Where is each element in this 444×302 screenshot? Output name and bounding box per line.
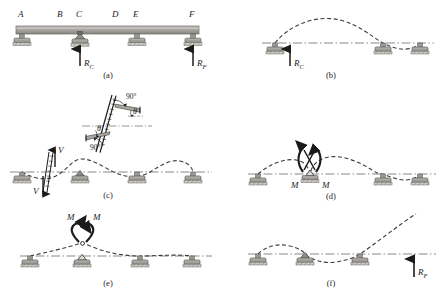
deflection-curve-d bbox=[258, 157, 420, 180]
panel-a bbox=[13, 26, 202, 66]
support-b1 bbox=[266, 43, 284, 54]
support-f bbox=[184, 34, 202, 46]
support-f1 bbox=[249, 254, 267, 265]
angle-label-theta-lower: θ bbox=[97, 125, 101, 133]
caption-e: (e) bbox=[88, 278, 128, 288]
node-label-e: E bbox=[133, 10, 139, 19]
caption-c: (c) bbox=[88, 190, 128, 200]
moment-label-left-d: M bbox=[291, 181, 299, 190]
moment-label-left-e: M bbox=[67, 213, 75, 222]
reaction-subscript: C bbox=[300, 63, 304, 70]
deflection-curve-b bbox=[275, 18, 420, 49]
shear-label-up: V bbox=[58, 146, 64, 155]
caption-d: (d) bbox=[311, 191, 351, 201]
node-label-b: B bbox=[57, 10, 63, 19]
node-label-a: A bbox=[18, 10, 24, 19]
moment-arrow-left-d bbox=[299, 148, 304, 172]
reaction-label-rc-b: RC bbox=[294, 59, 304, 70]
panel-b bbox=[262, 18, 434, 66]
support-a bbox=[13, 34, 31, 46]
reaction-subscript: F bbox=[424, 272, 428, 279]
angle-label-90-lower: 90° bbox=[90, 144, 101, 152]
deflection-curve-f bbox=[258, 214, 416, 263]
beam-analysis-figure: A B C D E F RC RF RC 90° θ 90° θ V V M M… bbox=[0, 0, 444, 302]
reaction-label-rf-f: RF bbox=[418, 268, 427, 279]
support-d1 bbox=[249, 174, 267, 185]
support-b3 bbox=[411, 43, 429, 54]
caption-f: (f) bbox=[311, 278, 351, 288]
support-e bbox=[128, 34, 146, 46]
panel-f bbox=[248, 214, 436, 277]
support-d3 bbox=[374, 174, 392, 185]
support-b2 bbox=[374, 43, 392, 54]
support-c1 bbox=[13, 172, 31, 183]
panel-e bbox=[20, 224, 212, 267]
reaction-subscript: C bbox=[90, 63, 94, 70]
moment-label-right-e: M bbox=[93, 213, 101, 222]
moment-arrow-left-e bbox=[72, 224, 80, 242]
reaction-subscript: F bbox=[203, 63, 207, 70]
node-label-c: C bbox=[76, 10, 82, 19]
caption-b: (b) bbox=[311, 70, 351, 80]
node-label-f: F bbox=[189, 10, 195, 19]
support-c4 bbox=[184, 172, 202, 183]
support-e4 bbox=[183, 256, 201, 267]
support-c3 bbox=[128, 172, 146, 183]
moment-arrows-d bbox=[299, 148, 321, 172]
angle-label-theta-upper: θ bbox=[133, 108, 137, 116]
deflection-curve-e bbox=[30, 243, 192, 256]
panel-d bbox=[248, 148, 436, 185]
caption-a: (a) bbox=[88, 70, 128, 80]
support-f3 bbox=[351, 254, 369, 265]
support-e3 bbox=[131, 256, 149, 267]
moment-arrow-right-d bbox=[316, 148, 321, 172]
support-e1 bbox=[21, 256, 39, 267]
moment-arrows-e bbox=[72, 224, 93, 246]
shear-label-down: V bbox=[33, 187, 39, 196]
figure-canvas bbox=[0, 0, 444, 302]
support-d4 bbox=[411, 174, 429, 185]
moment-label-right-d: M bbox=[322, 181, 330, 190]
moment-arrow-right-e bbox=[85, 224, 93, 242]
reaction-label-rf-a: RF bbox=[197, 59, 206, 70]
node-label-d: D bbox=[112, 10, 119, 19]
panel-c bbox=[10, 95, 212, 194]
reaction-label-rc-a: RC bbox=[84, 59, 94, 70]
angle-label-90-upper: 90° bbox=[126, 93, 137, 101]
